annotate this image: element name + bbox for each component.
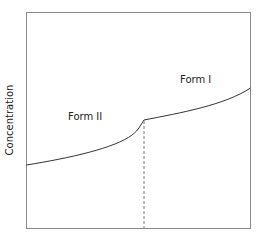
form-ii-curve (27, 120, 145, 165)
y-axis-label: Concentration (4, 85, 15, 156)
chart-canvas (0, 0, 263, 240)
form-i-curve (144, 88, 251, 120)
form-ii-label: Form II (68, 111, 102, 122)
form-i-label: Form I (180, 74, 211, 85)
plot-frame (27, 13, 251, 229)
